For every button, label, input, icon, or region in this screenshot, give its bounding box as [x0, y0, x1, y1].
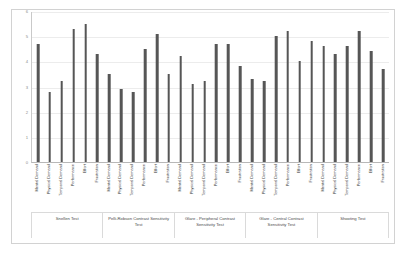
category-label-slot: Effort [150, 164, 162, 212]
group-label-cell: Glare - Central Contrast Sensitivity Tes… [245, 212, 316, 238]
bar-slot [163, 12, 175, 162]
bar[interactable] [310, 41, 313, 162]
category-axis-tick-label: Performance [286, 164, 290, 186]
bar[interactable] [60, 81, 63, 162]
bar-slot [306, 12, 318, 162]
category-axis-tick-label: Temporal Demand [130, 164, 134, 196]
bar[interactable] [382, 69, 385, 162]
bar-slot [175, 12, 187, 162]
category-axis-tick-label: Physical Demand [47, 164, 51, 194]
bar[interactable] [191, 84, 194, 162]
bar-slot [341, 12, 353, 162]
bar[interactable] [96, 54, 99, 162]
bar-slot [92, 12, 104, 162]
category-label-slot: Performance [282, 164, 294, 212]
bar[interactable] [239, 66, 242, 162]
category-label-slot: Performance [138, 164, 150, 212]
y-axis-tick-label: 0 [26, 161, 28, 165]
bar[interactable] [358, 31, 361, 162]
category-axis-tick-label: Mental Demand [321, 164, 325, 191]
category-axis-tick-label: Mental Demand [107, 164, 111, 191]
bar[interactable] [144, 49, 147, 162]
group-axis-labels: Snellen TestPelli-Robson Contrast Sensit… [31, 212, 389, 238]
category-label-slot: Effort [222, 164, 234, 212]
bar-slot [80, 12, 92, 162]
category-label-slot: Temporal Demand [270, 164, 282, 212]
category-label-slot: Physical Demand [258, 164, 270, 212]
category-axis-tick-label: Physical Demand [333, 164, 337, 194]
chart-container: 0123456 Mental DemandPhysical DemandTemp… [0, 0, 406, 258]
category-axis-tick-label: Temporal Demand [345, 164, 349, 196]
bar[interactable] [168, 74, 171, 162]
bar[interactable] [370, 51, 373, 162]
bar[interactable] [72, 29, 75, 162]
bar[interactable] [275, 36, 278, 162]
bar[interactable] [346, 46, 349, 162]
group-label-cell: Snellen Test [31, 212, 102, 238]
bar[interactable] [37, 44, 40, 162]
y-axis-tick-label: 5 [26, 35, 28, 39]
y-axis-tick-label: 2 [26, 111, 28, 115]
category-axis-tick-label: Physical Demand [119, 164, 123, 194]
bar-slot [211, 12, 223, 162]
bar-slot [282, 12, 294, 162]
category-label-slot: Performance [210, 164, 222, 212]
category-label-slot: Physical Demand [115, 164, 127, 212]
group-label-cell: Glare - Peripheral Contrast Sensitivity … [174, 212, 245, 238]
bar[interactable] [49, 92, 52, 162]
bar-slot [222, 12, 234, 162]
bar[interactable] [132, 92, 135, 162]
category-axis-tick-label: Physical Demand [262, 164, 266, 194]
group-label: Snellen Test [56, 216, 79, 222]
bar-slot [234, 12, 246, 162]
category-axis-tick-label: Mental Demand [35, 164, 39, 191]
category-axis-tick-label: Physical Demand [190, 164, 194, 194]
category-axis-tick-label: Frustration [309, 164, 313, 183]
category-axis-tick-label: Temporal Demand [202, 164, 206, 196]
category-label-slot: Performance [67, 164, 79, 212]
bar[interactable] [298, 61, 301, 162]
category-axis-tick-label: Effort [83, 164, 87, 173]
category-label-slot: Frustration [162, 164, 174, 212]
bar-slot [127, 12, 139, 162]
bar[interactable] [156, 34, 159, 162]
y-axis-tick-label: 1 [26, 136, 28, 140]
bar[interactable] [84, 24, 87, 162]
category-label-slot: Mental Demand [31, 164, 43, 212]
bar[interactable] [287, 31, 290, 162]
category-label-slot: Mental Demand [103, 164, 115, 212]
plot-area [31, 12, 389, 163]
bar-slot [68, 12, 80, 162]
category-label-slot: Effort [79, 164, 91, 212]
group-label: Pelli-Robson Contrast Sensitivity Test [108, 216, 170, 227]
category-axis-tick-label: Temporal Demand [59, 164, 63, 196]
bar-slot [330, 12, 342, 162]
category-label-slot: Physical Demand [43, 164, 55, 212]
bar[interactable] [322, 46, 325, 162]
category-axis-tick-label: Frustration [95, 164, 99, 183]
group-label: Shooting Test [340, 216, 365, 222]
y-axis-tick-label: 4 [26, 60, 28, 64]
bar[interactable] [179, 56, 182, 162]
bar[interactable] [108, 74, 111, 162]
bar-slot [270, 12, 282, 162]
bar[interactable] [215, 44, 218, 162]
category-label-slot: Temporal Demand [198, 164, 210, 212]
bar[interactable] [334, 54, 337, 162]
category-label-slot: Frustration [234, 164, 246, 212]
category-axis-tick-label: Effort [369, 164, 373, 173]
bar-slot [294, 12, 306, 162]
category-axis-labels: Mental DemandPhysical DemandTemporal Dem… [31, 164, 389, 212]
category-label-slot: Effort [294, 164, 306, 212]
bar[interactable] [203, 81, 206, 162]
bar-slot [44, 12, 56, 162]
bar[interactable] [251, 79, 254, 162]
category-axis-tick-label: Performance [71, 164, 75, 186]
category-label-slot: Mental Demand [317, 164, 329, 212]
bar[interactable] [263, 81, 266, 162]
bar[interactable] [120, 89, 123, 162]
category-label-slot: Temporal Demand [341, 164, 353, 212]
bar-slot [353, 12, 365, 162]
bar[interactable] [227, 44, 230, 162]
category-axis-tick-label: Mental Demand [250, 164, 254, 191]
